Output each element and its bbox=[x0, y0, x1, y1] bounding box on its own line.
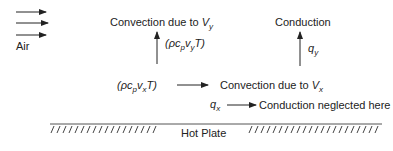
hatch-mark bbox=[105, 126, 108, 133]
hatch-mark bbox=[117, 126, 120, 133]
hatch-mark bbox=[57, 126, 60, 133]
hatch-mark bbox=[123, 126, 126, 133]
hatch-mark bbox=[87, 126, 90, 133]
hatch-mark bbox=[303, 126, 306, 133]
convection-y-label: Convection due to Vy bbox=[110, 17, 213, 28]
velocity-subscript: y bbox=[209, 22, 213, 31]
hatch-mark bbox=[51, 126, 54, 133]
hatch-mark bbox=[279, 126, 282, 133]
conduction-neglected-label: Conduction neglected here bbox=[259, 100, 390, 111]
hatch-mark bbox=[285, 126, 288, 133]
qy-label: qy bbox=[308, 43, 318, 54]
hatch-mark bbox=[267, 126, 270, 133]
hot-plate-label: Hot Plate bbox=[181, 128, 226, 139]
conduction-label: Conduction bbox=[275, 17, 331, 28]
velocity-symbol: V bbox=[202, 16, 209, 28]
horizontal-flux-expression: (ρcpvxT) bbox=[117, 80, 157, 91]
hatch-mark bbox=[69, 126, 72, 133]
hatch-mark bbox=[315, 126, 318, 133]
hatching-left bbox=[51, 126, 156, 133]
hatch-mark bbox=[327, 126, 330, 133]
hatch-mark bbox=[153, 126, 156, 133]
hatch-mark bbox=[129, 126, 132, 133]
hatch-mark bbox=[93, 126, 96, 133]
velocity-subscript: x bbox=[319, 85, 323, 94]
vertical-flux-expression: (ρcpvyT) bbox=[165, 38, 205, 49]
hatch-mark bbox=[99, 126, 102, 133]
hatch-mark bbox=[249, 126, 252, 133]
hatch-mark bbox=[369, 126, 372, 133]
hatch-mark bbox=[261, 126, 264, 133]
hatch-mark bbox=[333, 126, 336, 133]
hatch-mark bbox=[111, 126, 114, 133]
hatch-mark bbox=[75, 126, 78, 133]
hatch-mark bbox=[63, 126, 66, 133]
hatch-mark bbox=[273, 126, 276, 133]
hatch-mark bbox=[309, 126, 312, 133]
air-label: Air bbox=[16, 41, 29, 52]
hatch-mark bbox=[135, 126, 138, 133]
velocity-symbol: V bbox=[312, 79, 319, 91]
hatch-mark bbox=[147, 126, 150, 133]
hatch-mark bbox=[255, 126, 258, 133]
hatch-mark bbox=[291, 126, 294, 133]
convection-x-label: Convection due to Vx bbox=[220, 80, 323, 91]
hatch-mark bbox=[345, 126, 348, 133]
hatch-mark bbox=[375, 126, 378, 133]
convection-y-text: Convection due to bbox=[110, 16, 202, 28]
hatch-mark bbox=[81, 126, 84, 133]
hatch-mark bbox=[321, 126, 324, 133]
hatch-mark bbox=[357, 126, 360, 133]
hatch-mark bbox=[339, 126, 342, 133]
hatch-mark bbox=[363, 126, 366, 133]
hatch-mark bbox=[297, 126, 300, 133]
qx-label: qx bbox=[210, 99, 220, 110]
hatch-mark bbox=[141, 126, 144, 133]
hatch-mark bbox=[351, 126, 354, 133]
convection-x-text: Convection due to bbox=[220, 79, 312, 91]
hatching-right bbox=[249, 126, 378, 133]
